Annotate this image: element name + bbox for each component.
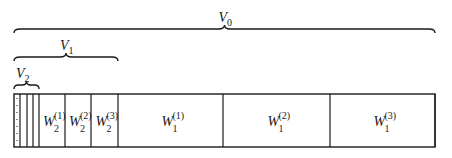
cell-label-subscript: 1 [385,123,390,134]
cell-label-superscript: (2) [279,110,291,122]
brace-v1: V1 [14,38,118,61]
cell-label-subscript: 1 [279,123,284,134]
cell-label-superscript: (2) [80,110,92,122]
cell-w1_1: W(1)1 [162,110,185,134]
subspace-diagram: V0V1V2 W(1)2W(2)2W(3)2W(1)1W(2)1W(3)1 [0,0,452,158]
cell-label-superscript: (3) [385,110,397,122]
cell-label-subscript: 2 [80,123,85,134]
cell-w2_1: W(1)2 [43,110,66,134]
cell-w2_2: W(2)2 [69,110,92,134]
cell-label-subscript: 2 [107,123,112,134]
cell-w2_3: W(3)2 [96,110,119,134]
brace-label-v0: V0 [219,10,233,28]
brace-label-v1: V1 [60,38,74,56]
brace-icon [14,25,435,33]
cell-label-superscript: (1) [173,110,185,122]
brace-icon [14,53,118,61]
brace-label-v2: V2 [16,66,30,84]
cell-w1_2: W(2)1 [268,110,291,134]
braces-group: V0V1V2 [14,10,435,89]
cell-label-subscript: 1 [173,123,178,134]
cell-label-subscript: 2 [54,123,59,134]
cell-label-superscript: (3) [107,110,119,122]
cell-w1_3: W(3)1 [374,110,397,134]
brace-v2: V2 [14,66,39,89]
cell-labels-group: W(1)2W(2)2W(3)2W(1)1W(2)1W(3)1 [43,110,396,134]
brace-v0: V0 [14,10,435,33]
cell-label-superscript: (1) [54,110,66,122]
